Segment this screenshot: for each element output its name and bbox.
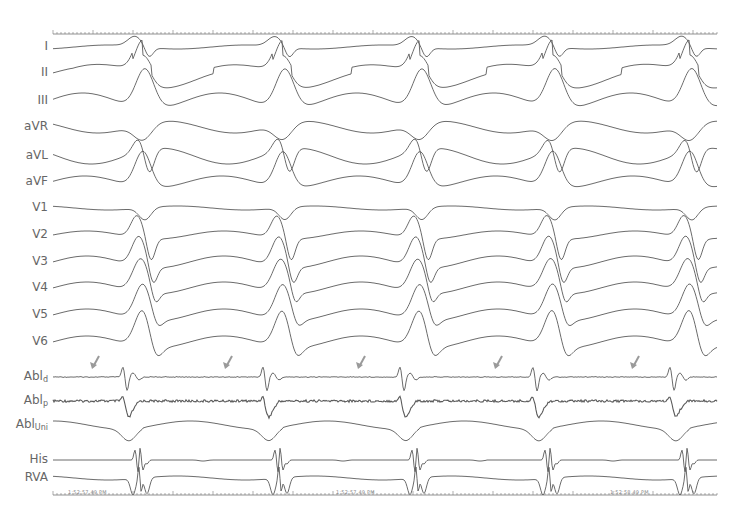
lead-label-v4: V4 xyxy=(0,280,48,294)
lead-label-avl: aVL xyxy=(0,148,48,162)
arrow-icon xyxy=(90,356,99,369)
lead-label-his: His xyxy=(0,452,48,466)
lead-label-iii: III xyxy=(0,93,48,107)
lead-label-abl-uni: AblUni xyxy=(0,417,48,435)
trace-v6 xyxy=(53,311,717,356)
trace-v2 xyxy=(53,216,717,260)
timestamp: 1:52:57.49 PM xyxy=(68,489,107,495)
lead-label-v2: V2 xyxy=(0,227,48,241)
trace-v5 xyxy=(53,284,717,325)
lead-label-v1: V1 xyxy=(0,200,48,214)
trace-abl-uni xyxy=(53,421,717,441)
lead-label-abl-p: Ablp xyxy=(0,393,48,411)
trace-abl-p xyxy=(53,396,717,418)
lead-label-v6: V6 xyxy=(0,334,48,348)
lead-label-rva: RVA xyxy=(0,470,48,484)
trace-his xyxy=(53,448,717,471)
trace-avl xyxy=(53,139,717,172)
trace-v3 xyxy=(53,236,717,282)
arrow-icon xyxy=(493,356,502,369)
electrogram-figure: IIIIIIaVRaVLaVFV1V2V3V4V5V6AbldAblpAblUn… xyxy=(0,0,747,524)
trace-i xyxy=(53,36,717,56)
trace-canvas xyxy=(0,0,747,524)
lead-label-abl-d: Abld xyxy=(0,369,48,387)
timestamp: 1:52:58.49 PM xyxy=(610,489,649,495)
trace-abl-d xyxy=(53,367,717,391)
lead-label-avf: aVF xyxy=(0,174,48,188)
trace-iii xyxy=(53,69,717,106)
lead-label-avr: aVR xyxy=(0,119,48,133)
arrow-icon xyxy=(356,356,365,369)
lead-label-v5: V5 xyxy=(0,307,48,321)
timestamp: 1:52:57.49 PM xyxy=(336,489,375,495)
trace-avf xyxy=(53,151,717,186)
lead-label-i: I xyxy=(0,39,48,53)
trace-avr xyxy=(53,121,717,140)
ruler-ticks xyxy=(53,30,717,34)
trace-v1 xyxy=(53,206,717,220)
arrow-icon xyxy=(630,356,639,369)
lead-label-v3: V3 xyxy=(0,254,48,268)
arrow-icon xyxy=(223,356,232,369)
lead-label-ii: II xyxy=(0,65,48,79)
